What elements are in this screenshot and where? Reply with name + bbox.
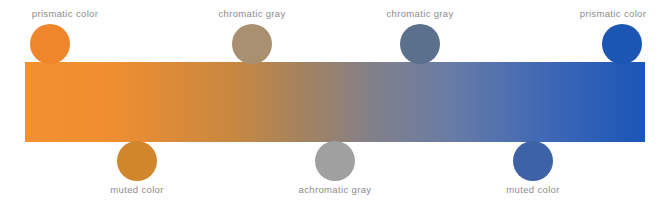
swatch-achromatic-gray[interactable] <box>315 141 355 181</box>
label-muted-orange: muted color <box>110 185 163 195</box>
label-prismatic-orange: prismatic color <box>32 9 99 19</box>
spectrum-gradient-bar <box>25 62 645 142</box>
swatch-muted-blue[interactable] <box>513 141 553 181</box>
label-chromatic-gray-cool: chromatic gray <box>386 9 453 19</box>
label-muted-blue: muted color <box>506 185 559 195</box>
color-relationship-diagram: prismatic colorchromatic graychromatic g… <box>0 0 670 204</box>
swatch-chromatic-gray-cool[interactable] <box>400 24 440 64</box>
swatch-muted-orange[interactable] <box>117 141 157 181</box>
label-prismatic-blue: prismatic color <box>580 9 647 19</box>
swatch-prismatic-orange[interactable] <box>30 24 70 64</box>
swatch-prismatic-blue[interactable] <box>602 24 642 64</box>
label-achromatic-gray: achromatic gray <box>299 185 372 195</box>
label-chromatic-gray-warm: chromatic gray <box>218 9 285 19</box>
swatch-chromatic-gray-warm[interactable] <box>232 24 272 64</box>
